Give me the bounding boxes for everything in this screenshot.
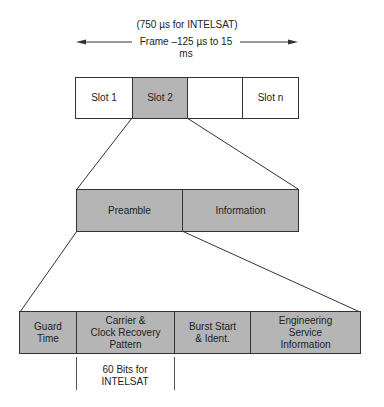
- engineering-service-field: Engineering Service Information: [250, 311, 361, 354]
- slot-label: Slot 1: [91, 92, 117, 104]
- field-text: & Ident.: [195, 333, 229, 345]
- frame-duration-label: Frame –125 µs to 15 ms: [132, 36, 240, 60]
- field-text: Clock Recovery: [90, 327, 160, 339]
- field-text: Burst Start: [189, 321, 236, 333]
- field-text: Pattern: [109, 339, 141, 351]
- carrier-clock-recovery-field: Carrier & Clock Recovery Pattern: [76, 311, 175, 354]
- slot-empty: [187, 77, 243, 119]
- information-label: Information: [215, 205, 265, 217]
- field-text: Service: [289, 327, 322, 339]
- field-text: Information: [280, 339, 330, 351]
- annotation-text: INTELSAT: [76, 376, 174, 388]
- preamble-block: Preamble: [76, 189, 183, 232]
- preamble-label: Preamble: [108, 205, 151, 217]
- field-text: Carrier &: [105, 315, 145, 327]
- slot-label: Slot 2: [147, 92, 173, 104]
- bits-annotation: 60 Bits for INTELSAT: [76, 364, 174, 388]
- field-text: Time: [37, 333, 59, 345]
- field-text: Guard: [34, 321, 62, 333]
- field-text: Engineering: [279, 315, 332, 327]
- guard-time-field: Guard Time: [19, 311, 77, 354]
- burst-start-ident-field: Burst Start & Ident.: [174, 311, 251, 354]
- annotation-text: 60 Bits for: [76, 364, 174, 376]
- information-block: Information: [182, 189, 299, 232]
- slot-2: Slot 2: [132, 77, 188, 119]
- slot-n: Slot n: [242, 77, 299, 119]
- intelsat-frame-note: (750 µs for INTELSAT): [100, 19, 274, 31]
- slot-label: Slot n: [258, 92, 284, 104]
- slot-1: Slot 1: [75, 77, 133, 119]
